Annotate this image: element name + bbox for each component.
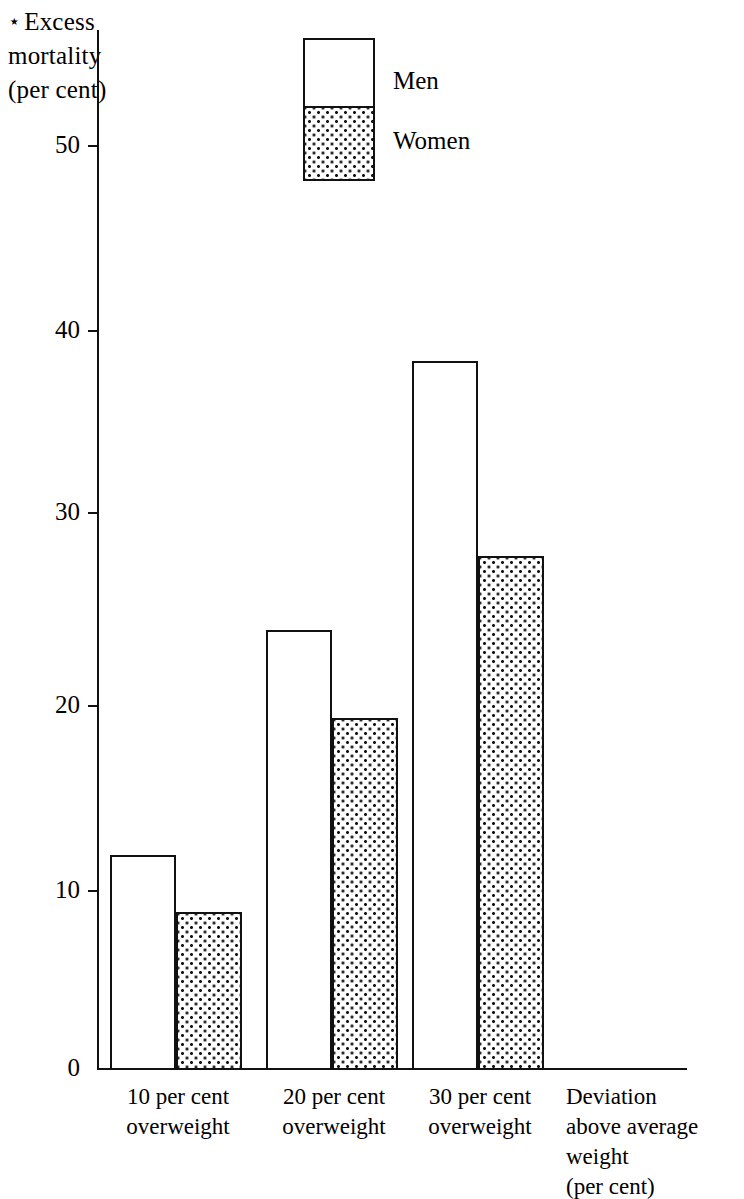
x-category-label-30-line1: 30 per cent xyxy=(429,1084,531,1109)
bar-women-10-per-cent xyxy=(176,912,242,1070)
y-tick-label-10: 10 xyxy=(0,877,80,902)
x-axis-title-line3: weight xyxy=(566,1144,629,1169)
y-axis-title-line2: mortality xyxy=(8,42,101,69)
y-tick-label-50: 50 xyxy=(0,132,80,157)
x-axis-title-line1: Deviation xyxy=(566,1084,657,1109)
bar-men-20-per-cent xyxy=(266,630,332,1070)
y-tick-label-40: 40 xyxy=(0,317,80,342)
x-axis-title-line2: above average xyxy=(566,1114,698,1139)
x-category-label-20-per-cent: 20 per cent overweight xyxy=(252,1082,416,1142)
legend-label-women: Women xyxy=(393,128,470,153)
y-tick-mark-20 xyxy=(88,705,99,707)
legend-swatch-men xyxy=(303,38,375,108)
legend-swatch-women xyxy=(303,106,375,181)
bar-men-30-per-cent xyxy=(412,361,478,1070)
x-category-label-20-line2: overweight xyxy=(282,1114,385,1139)
x-axis-title: Deviation above average weight (per cent… xyxy=(566,1082,744,1199)
bar-men-10-per-cent xyxy=(110,855,176,1070)
y-tick-label-0: 0 xyxy=(0,1055,80,1080)
bar-women-20-per-cent xyxy=(332,718,398,1070)
legend-label-men: Men xyxy=(393,68,439,93)
x-axis-title-line4: (per cent) xyxy=(566,1174,655,1199)
y-axis-title-line1: Excess xyxy=(24,8,95,35)
y-tick-label-30: 30 xyxy=(0,499,80,524)
y-tick-mark-30 xyxy=(88,512,99,514)
y-axis-title-line3: (per cent) xyxy=(8,76,106,103)
footnote-star-icon: ⋆ xyxy=(8,10,21,32)
y-tick-mark-50 xyxy=(88,145,99,147)
y-axis-line xyxy=(97,30,99,1070)
bar-women-30-per-cent xyxy=(478,556,544,1070)
x-category-label-20-line1: 20 per cent xyxy=(283,1084,385,1109)
x-category-label-10-line2: overweight xyxy=(126,1114,229,1139)
x-category-label-10-per-cent: 10 per cent overweight xyxy=(96,1082,260,1142)
y-tick-mark-40 xyxy=(88,330,99,332)
y-axis-title: ⋆Excess mortality (per cent) xyxy=(8,4,106,107)
x-category-label-30-per-cent: 30 per cent overweight xyxy=(398,1082,562,1142)
y-tick-mark-10 xyxy=(88,890,99,892)
x-category-label-30-line2: overweight xyxy=(428,1114,531,1139)
y-tick-label-20: 20 xyxy=(0,692,80,717)
x-category-label-10-line1: 10 per cent xyxy=(127,1084,229,1109)
bar-chart: ⋆Excess mortality (per cent) 50 40 30 20… xyxy=(0,0,744,1199)
